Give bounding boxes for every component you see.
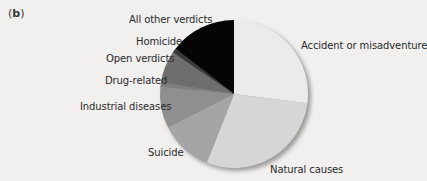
- label-drug: Drug-related: [105, 75, 167, 86]
- pie-slices: [160, 20, 308, 168]
- label-homicide: Homicide: [136, 36, 182, 47]
- label-natural: Natural causes: [270, 164, 343, 175]
- label-suicide: Suicide: [148, 147, 184, 158]
- label-other: All other verdicts: [129, 14, 212, 25]
- label-accident: Accident or misadventure: [301, 40, 427, 51]
- label-open: Open verdicts: [106, 53, 174, 64]
- pie-slice-accident-or-misadventure: [234, 20, 308, 103]
- label-industrial: Industrial diseases: [80, 101, 171, 112]
